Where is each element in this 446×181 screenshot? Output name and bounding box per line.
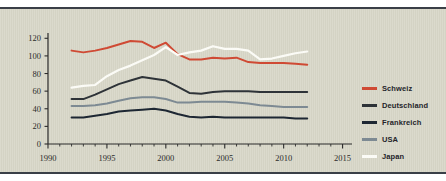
series-line-frankreich xyxy=(72,109,308,119)
series-line-usa xyxy=(72,97,308,107)
legend-swatch-icon xyxy=(362,155,377,158)
legend-swatch-icon xyxy=(362,87,377,90)
legend-swatch-icon xyxy=(362,121,377,124)
legend-label: Japan xyxy=(382,152,404,161)
x-tick-label: 2015 xyxy=(325,153,361,163)
legend-label: Schweiz xyxy=(382,84,412,93)
y-tick-label: 40 xyxy=(14,104,41,114)
series-line-japan xyxy=(72,46,308,87)
legend-swatch-icon xyxy=(362,138,377,141)
legend-item-japan: Japan xyxy=(362,148,446,165)
y-tick-label: 0 xyxy=(14,139,41,149)
x-tick-label: 2000 xyxy=(148,153,184,163)
y-tick-label: 100 xyxy=(14,51,41,61)
y-tick-label: 20 xyxy=(14,121,41,131)
y-tick-label: 80 xyxy=(14,69,41,79)
data-series xyxy=(72,41,308,119)
legend-item-frankreich: Frankreich xyxy=(362,114,446,131)
chart-figure: 020406080100120199019952000200520102015 … xyxy=(0,0,446,181)
series-line-deutschland xyxy=(72,77,308,99)
x-tick-label: 2010 xyxy=(266,153,302,163)
y-tick-label: 120 xyxy=(14,33,41,43)
x-tick-label: 1995 xyxy=(89,153,125,163)
x-tick-label: 2005 xyxy=(207,153,243,163)
legend-item-schweiz: Schweiz xyxy=(362,80,446,97)
legend-label: Deutschland xyxy=(382,101,428,110)
chart-legend: SchweizDeutschlandFrankreichUSAJapan xyxy=(362,80,446,165)
legend-item-usa: USA xyxy=(362,131,446,148)
legend-item-deutschland: Deutschland xyxy=(362,97,446,114)
legend-swatch-icon xyxy=(362,104,377,107)
y-tick-label: 60 xyxy=(14,86,41,96)
x-tick-label: 1990 xyxy=(30,153,66,163)
legend-label: Frankreich xyxy=(382,118,421,127)
legend-label: USA xyxy=(382,135,398,144)
